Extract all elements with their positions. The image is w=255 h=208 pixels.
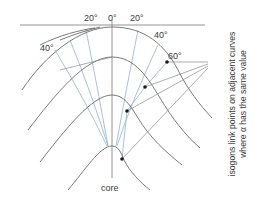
tangent-left-curve-2 [60,57,112,70]
isogon-caption: isogons link points on adjacent curves w… [227,32,249,177]
fold-isogon-figure [0,0,255,208]
point-curve-4 [120,157,124,161]
label-20-left: 20° [84,14,98,23]
fold-curve-2 [28,57,200,148]
isogon-20-left [86,30,108,146]
isogon-30-left [70,40,108,146]
fold-curve-3 [40,95,182,165]
label-0: 0° [108,14,117,23]
label-40-right: 40° [154,31,168,40]
label-60: 60° [168,52,182,61]
label-core: core [101,184,119,193]
label-20-right: 20° [130,14,144,23]
isogon-20-right [116,30,138,146]
tangent-20-left [60,27,100,40]
point-curve-2 [143,85,147,89]
caption-line-1: isogons link points on adjacent curves [227,32,238,177]
isogon-40-right [117,45,158,146]
fold-curve-1 [22,27,212,118]
tangent-line-3 [127,66,208,111]
caption-line-2: where α has the same value [238,32,249,177]
label-40-left: 40° [40,44,54,53]
isogons [55,30,167,159]
point-curve-3 [125,109,129,113]
